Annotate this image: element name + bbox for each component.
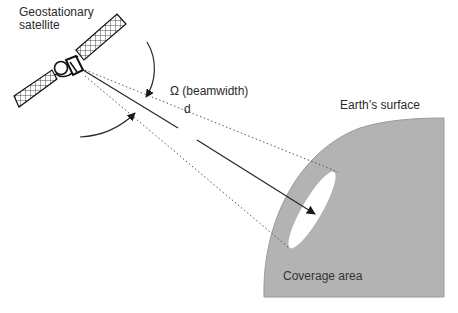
distance-arrow (197, 140, 315, 214)
beamwidth-arc-lower (80, 113, 135, 137)
earth-surface-label: Earth’s surface (340, 99, 420, 112)
distance-label: d (184, 103, 191, 116)
beamwidth-label: Ω (beamwidth) (170, 85, 248, 98)
distance-line-segment (83, 70, 178, 128)
satellite-label-line2: satellite (19, 19, 94, 32)
beamwidth-arc-upper (146, 42, 154, 97)
satellite-dish (55, 62, 68, 75)
coverage-area-label: Coverage area (283, 270, 362, 283)
satellite-coverage-diagram (0, 0, 458, 313)
satellite-body (66, 56, 83, 75)
solar-panel-lower (14, 70, 57, 107)
satellite-label: Geostationary satellite (19, 6, 94, 32)
